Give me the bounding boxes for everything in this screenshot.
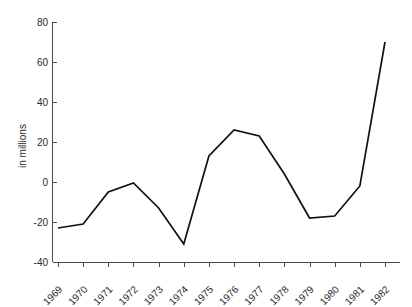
y-tick-label: -20 (34, 217, 49, 228)
y-tick-label: 60 (37, 57, 49, 68)
y-tick-label: 20 (37, 137, 49, 148)
y-tick-label: -40 (34, 257, 49, 268)
y-axis-title: in millions (17, 124, 28, 168)
x-axis-tick-labels: 1969197019711972197319741975197619771978… (41, 283, 392, 307)
y-tick-label: 40 (37, 97, 49, 108)
y-tick-label: 80 (37, 17, 49, 28)
y-axis-tick-labels: 80 60 40 20 0 -20 -40 (34, 17, 49, 268)
x-tick-label: 1978 (267, 283, 291, 307)
y-axis-ticks (53, 23, 58, 263)
x-tick-label: 1982 (368, 283, 392, 307)
x-tick-label: 1974 (167, 283, 191, 307)
y-tick-label: 0 (42, 177, 48, 188)
x-tick-label: 1979 (292, 283, 316, 307)
x-tick-label: 1969 (41, 283, 65, 307)
x-axis-ticks (59, 263, 386, 268)
x-tick-label: 1971 (91, 283, 115, 307)
line-chart: in millions 80 60 40 20 0 -20 -40 196919… (0, 0, 412, 307)
x-tick-label: 1973 (142, 283, 166, 307)
x-tick-label: 1976 (217, 283, 241, 307)
x-tick-label: 1970 (66, 283, 90, 307)
x-tick-label: 1981 (343, 283, 367, 307)
x-tick-label: 1980 (318, 283, 342, 307)
x-tick-label: 1977 (242, 283, 266, 307)
x-tick-label: 1972 (116, 283, 140, 307)
chart-container: in millions 80 60 40 20 0 -20 -40 196919… (0, 0, 412, 307)
x-tick-label: 1975 (192, 283, 216, 307)
data-series-line (58, 42, 385, 244)
